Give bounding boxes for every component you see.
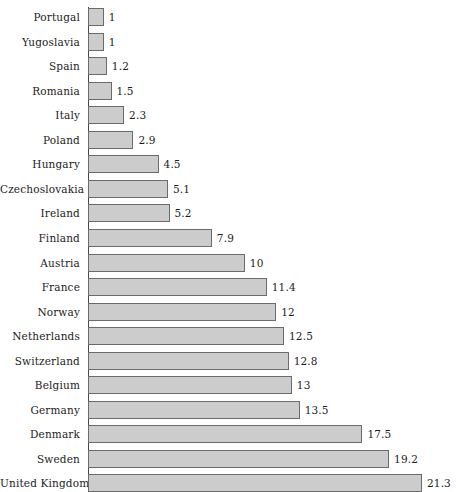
bar-value-label: 1.2 (112, 57, 129, 75)
bar-value-label: 11.4 (272, 278, 296, 296)
bar-row: Portugal1 (0, 8, 460, 26)
category-label: Netherlands (0, 327, 80, 345)
bar-row: Poland2.9 (0, 131, 460, 149)
bar-value-label: 5.1 (173, 180, 190, 198)
bar-value-label: 12.8 (294, 352, 318, 370)
bar (88, 131, 133, 149)
bar-value-label: 5.2 (175, 204, 192, 222)
bar (88, 278, 267, 296)
bar (88, 450, 389, 468)
bar (88, 33, 104, 51)
category-label: Romania (0, 82, 80, 100)
bar (88, 254, 245, 272)
bar-value-label: 10 (250, 254, 264, 272)
bar-value-label: 13.5 (305, 401, 329, 419)
bar-row: Netherlands12.5 (0, 327, 460, 345)
bar-row: Norway12 (0, 303, 460, 321)
bar (88, 425, 362, 443)
category-label: Italy (0, 106, 80, 124)
category-label: Poland (0, 131, 80, 149)
category-label: Ireland (0, 204, 80, 222)
bar-row: Belgium13 (0, 376, 460, 394)
bar-value-label: 13 (297, 376, 311, 394)
bar (88, 57, 107, 75)
bar-row: United Kingdom21.3 (0, 474, 460, 492)
bar-row: Germany13.5 (0, 401, 460, 419)
bar-value-label: 2.9 (138, 131, 155, 149)
bar-value-label: 12 (281, 303, 295, 321)
bar-value-label: 12.5 (289, 327, 313, 345)
category-label: Portugal (0, 8, 80, 26)
bar (88, 155, 159, 173)
bar-row: Ireland5.2 (0, 204, 460, 222)
bar-row: Denmark17.5 (0, 425, 460, 443)
category-label: Belgium (0, 376, 80, 394)
bar-row: Italy2.3 (0, 106, 460, 124)
category-label: United Kingdom (0, 474, 80, 492)
category-label: Sweden (0, 450, 80, 468)
bar-value-label: 7.9 (217, 229, 234, 247)
category-label: Norway (0, 303, 80, 321)
bar-row: Finland7.9 (0, 229, 460, 247)
category-label: Spain (0, 57, 80, 75)
bar-row: Romania1.5 (0, 82, 460, 100)
bar (88, 376, 292, 394)
bar (88, 8, 104, 26)
bar-value-label: 1.5 (117, 82, 134, 100)
bar-row: Czechoslovakia5.1 (0, 180, 460, 198)
bar (88, 229, 212, 247)
category-label: Denmark (0, 425, 80, 443)
bar-value-label: 4.5 (164, 155, 181, 173)
bar (88, 303, 276, 321)
category-label: Austria (0, 254, 80, 272)
bar-row: Yugoslavia1 (0, 33, 460, 51)
bar-row: Austria10 (0, 254, 460, 272)
category-label: Yugoslavia (0, 33, 80, 51)
category-label: Germany (0, 401, 80, 419)
bar (88, 204, 170, 222)
bar-value-label: 2.3 (129, 106, 146, 124)
category-label: Hungary (0, 155, 80, 173)
bar-row: Switzerland12.8 (0, 352, 460, 370)
bar-value-label: 21.3 (427, 474, 451, 492)
bar (88, 401, 300, 419)
bar-row: Spain1.2 (0, 57, 460, 75)
bar (88, 474, 422, 492)
category-label: Finland (0, 229, 80, 247)
bar-value-label: 17.5 (367, 425, 391, 443)
bar (88, 82, 112, 100)
bar-row: France11.4 (0, 278, 460, 296)
bar (88, 327, 284, 345)
bar-value-label: 19.2 (394, 450, 418, 468)
bar-value-label: 1 (109, 33, 116, 51)
bar (88, 106, 124, 124)
bar-row: Hungary4.5 (0, 155, 460, 173)
category-label: Switzerland (0, 352, 80, 370)
category-label: France (0, 278, 80, 296)
bar-row: Sweden19.2 (0, 450, 460, 468)
bar (88, 180, 168, 198)
bar (88, 352, 289, 370)
bar-value-label: 1 (109, 8, 116, 26)
category-label: Czechoslovakia (0, 180, 80, 198)
